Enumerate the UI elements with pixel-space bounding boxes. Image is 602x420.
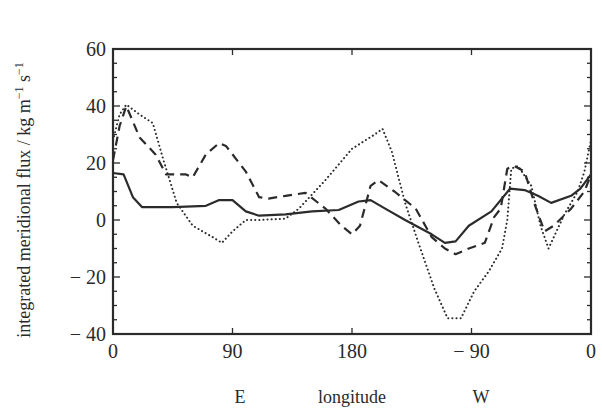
x-tick-labels: 090180− 900 — [108, 340, 596, 362]
x-tick-label: 0 — [108, 340, 118, 362]
y-tick-label: − 40 — [70, 323, 106, 345]
axis-ticks — [113, 49, 591, 334]
x-tick-label: 180 — [337, 340, 367, 362]
y-tick-label: 40 — [86, 95, 106, 117]
y-tick-label: − 20 — [70, 266, 106, 288]
series-dashed-line — [113, 106, 591, 254]
y-tick-label: 0 — [96, 209, 106, 231]
series-dotted-line — [113, 105, 591, 319]
x-axis-label: longitude — [318, 387, 386, 407]
y-tick-label: 60 — [86, 38, 106, 60]
series-solid-line — [113, 173, 591, 243]
y-tick-label: 20 — [86, 152, 106, 174]
x-tick-label: 90 — [223, 340, 243, 362]
x-label-east: E — [235, 387, 246, 407]
x-tick-label: 0 — [586, 340, 596, 362]
x-tick-label: − 90 — [453, 340, 489, 362]
y-tick-labels: 6040200− 20− 40 — [70, 38, 106, 345]
y-axis-label: integrated meridional flux / kg m−1 s−1 — [12, 62, 34, 338]
chart: 090180− 900 6040200− 20− 40 integrated m… — [0, 0, 602, 420]
plot-frame — [113, 49, 591, 334]
data-series — [113, 105, 591, 319]
x-label-west: W — [473, 387, 490, 407]
